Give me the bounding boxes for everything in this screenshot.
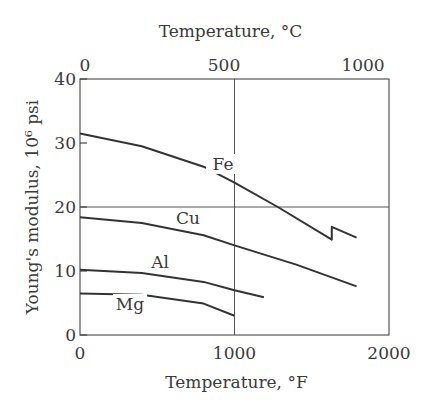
series-label-cu: Cu: [176, 208, 200, 228]
x2-tick-label: 500: [208, 55, 240, 75]
y-tick-label: 10: [54, 261, 76, 281]
x-axis-title: Temperature, °F: [165, 372, 308, 392]
x2-tick-label: 1000: [341, 55, 384, 75]
series-label-fe: Fe: [213, 154, 234, 174]
x-tick-label: 2000: [367, 343, 410, 363]
series-line-cu: [80, 217, 357, 286]
y-tick-label: 0: [65, 325, 76, 345]
x2-axis-title: Temperature, °C: [159, 21, 303, 41]
y-tick-label: 30: [54, 133, 76, 153]
x-tick-label: 0: [75, 343, 86, 363]
series-label-mg: Mg: [116, 294, 144, 314]
series-label-al: Al: [150, 252, 169, 272]
y-tick-label: 20: [54, 197, 76, 217]
y-axis-title: Young's modulus, 10⁶ psi: [22, 99, 42, 315]
x-tick-label: 1000: [213, 343, 256, 363]
series-line-fe: [80, 133, 357, 239]
x2-tick-label: 0: [80, 55, 91, 75]
y-tick-label: 40: [54, 69, 76, 89]
series-line-mg: [80, 293, 235, 315]
youngs-modulus-chart: 01020304001000200005001000Temperature, °…: [0, 0, 434, 410]
